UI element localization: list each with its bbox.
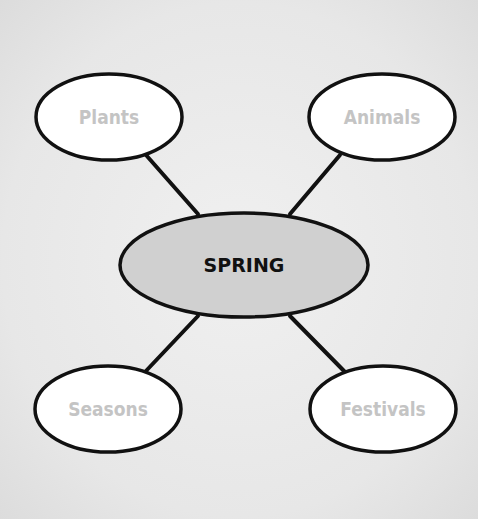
connector-animals — [290, 155, 340, 214]
node-plants: Plants — [36, 74, 182, 160]
mind-map-diagram: Plants Animals SPRING Seasons Festivals — [0, 0, 478, 519]
node-center-label: SPRING — [204, 254, 285, 276]
node-festivals-label: Festivals — [340, 398, 425, 420]
connector-seasons — [145, 316, 198, 372]
node-center: SPRING — [120, 213, 368, 317]
node-seasons-label: Seasons — [68, 398, 148, 420]
node-festivals: Festivals — [310, 366, 456, 452]
node-plants-label: Plants — [79, 106, 139, 128]
node-seasons: Seasons — [35, 366, 181, 452]
mind-map-canvas: Plants Animals SPRING Seasons Festivals — [0, 0, 478, 519]
connector-festivals — [290, 316, 345, 372]
node-animals: Animals — [309, 74, 455, 160]
connector-plants — [146, 155, 198, 214]
node-animals-label: Animals — [344, 106, 421, 128]
